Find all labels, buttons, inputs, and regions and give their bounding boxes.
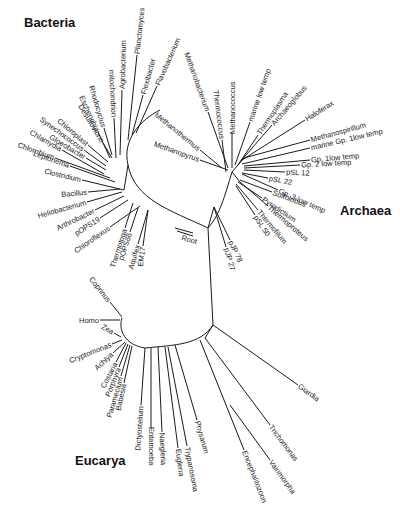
leaf-branch: [114, 118, 116, 158]
taxon-label: Agrobacterium: [118, 40, 129, 89]
taxon-label: Encephalitozoon: [240, 449, 269, 504]
leaf-branch: [141, 348, 145, 405]
taxon-label: Methanobacterium: [182, 51, 211, 113]
domain-label-eucarya: Eucarya: [75, 453, 126, 468]
taxon-label: Giardia: [296, 382, 322, 404]
root-marker-line: [175, 228, 193, 233]
leaf-branch: [112, 340, 122, 344]
leaf-branch: [205, 338, 270, 425]
leaf-branch: [200, 150, 222, 168]
taxon-label: pSL 12: [286, 168, 310, 178]
taxon-label: Entamoeba: [147, 427, 156, 466]
leaf-branch: [87, 192, 122, 202]
leaf-branch: [236, 186, 255, 215]
taxon-label: Dictyostelium: [133, 406, 145, 451]
taxon-label: Trichomonas: [267, 423, 300, 463]
leaf-branch: [213, 325, 298, 385]
taxon-label: Homo: [79, 316, 99, 325]
leaf-branch: [110, 302, 122, 317]
leaf-branch: [88, 189, 120, 192]
leaf-branch: [114, 333, 121, 337]
taxon-label: mitochondrion: [107, 70, 118, 118]
domain-label-bacteria: Bacteria: [24, 15, 76, 30]
root-label: Root: [180, 233, 199, 246]
taxon-label: Physarum: [193, 420, 211, 455]
taxon-label: Flavobacterium: [153, 36, 182, 86]
bacteria-stem: [124, 165, 128, 190]
leaf-branch: [100, 200, 128, 218]
taxon-label: Thermococcus: [211, 90, 226, 140]
archaea-crenarchaeota-stem: [232, 172, 240, 182]
taxon-label: Methanococcus: [228, 81, 237, 134]
taxon-label: Zea: [100, 322, 116, 337]
phylogenetic-tree-figure: RootmitochondrionAgrobacteriumPlanctomyc…: [0, 0, 400, 515]
leaf-branch: [175, 345, 197, 420]
domain-label-archaea: Archaea: [340, 203, 392, 218]
leaf-branch: [128, 55, 137, 140]
euk-lower-stem: [205, 325, 213, 338]
taxon-label: Haloferax: [303, 98, 335, 123]
tree-canvas: RootmitochondrionAgrobacteriumPlanctomyc…: [0, 0, 400, 515]
taxon-label: Clostridium: [43, 167, 82, 184]
taxon-label: Naegleria: [158, 433, 169, 466]
leaf-branch: [168, 347, 187, 446]
leaf-branch: [222, 140, 226, 172]
leaf-branch: [143, 210, 148, 246]
leaf-branch: [158, 347, 162, 432]
taxon-label: Flexibacter: [139, 57, 158, 95]
leaf-branch: [244, 170, 285, 172]
taxon-label: Planctomyces: [133, 7, 147, 55]
taxon-label: Coprinus: [87, 275, 113, 304]
leaf-branch: [82, 180, 124, 190]
leaf-branch: [138, 210, 148, 244]
taxon-label: Vairimorpha: [267, 458, 298, 496]
leaf-branch: [120, 90, 122, 155]
taxon-label: EM17: [136, 246, 148, 267]
